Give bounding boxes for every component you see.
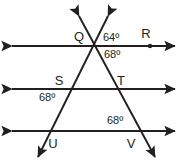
- geometry-figure: Q R S T U V 64º 68º 68º 68º: [0, 0, 187, 164]
- parallel-line-group: [12, 46, 175, 131]
- point-dot-r: [148, 44, 152, 48]
- point-label-r: R: [141, 26, 150, 41]
- point-label-s: S: [55, 73, 64, 88]
- angle-label-68-at-s: 68º: [39, 91, 55, 103]
- point-label-u: U: [48, 136, 57, 151]
- angle-label-64-top: 64º: [103, 31, 119, 43]
- point-label-t: T: [117, 73, 125, 88]
- angle-label-68-at-v: 68º: [107, 114, 123, 126]
- geometry-diagram-canvas: Q R S T U V 64º 68º 68º 68º: [0, 0, 187, 164]
- point-label-q: Q: [74, 29, 84, 44]
- point-label-v: V: [127, 136, 136, 151]
- angle-label-68-below-q: 68º: [104, 48, 120, 60]
